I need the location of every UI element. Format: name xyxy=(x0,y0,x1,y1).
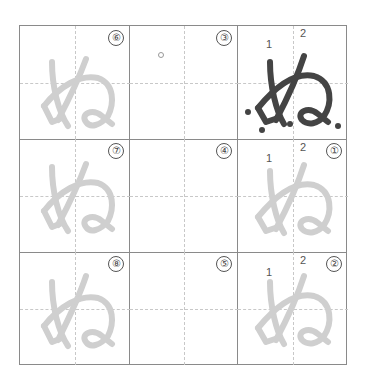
practice-cell-1[interactable]: 1 2 ① xyxy=(238,139,348,252)
practice-cell-4[interactable]: ④ xyxy=(130,139,238,252)
cell-number-badge: ④ xyxy=(216,143,232,159)
nu-model-glyph xyxy=(238,26,348,139)
practice-cell-7[interactable]: ⑦ xyxy=(20,139,130,252)
stroke-order-label-1: 1 xyxy=(266,266,272,278)
practice-cell-5[interactable]: ⑤ xyxy=(130,252,238,365)
stroke-order-label-1: 1 xyxy=(266,38,272,50)
cell-number-badge: ⑧ xyxy=(108,256,124,272)
writing-practice-grid: ⑥ ③ 1 2 xyxy=(19,25,347,365)
cell-number-badge: ② xyxy=(326,256,342,272)
practice-cell-8[interactable]: ⑧ xyxy=(20,252,130,365)
stroke-order-label-2: 2 xyxy=(300,27,306,39)
cell-number-badge: ① xyxy=(326,143,342,159)
cell-number-badge: ⑦ xyxy=(108,143,124,159)
stroke-order-label-1: 1 xyxy=(266,152,272,164)
cell-number-badge: ⑤ xyxy=(216,256,232,272)
stroke-order-label-2: 2 xyxy=(300,254,306,266)
practice-cell-3[interactable]: ③ xyxy=(130,26,238,139)
cell-number-badge: ③ xyxy=(216,30,232,46)
practice-cell-6[interactable]: ⑥ xyxy=(20,26,130,139)
practice-cell-2[interactable]: 1 2 ② xyxy=(238,252,348,365)
horizontal-guide xyxy=(130,196,238,197)
horizontal-guide xyxy=(130,309,238,310)
horizontal-guide xyxy=(130,83,238,84)
stroke-order-label-2: 2 xyxy=(300,141,306,153)
model-cell: 1 2 xyxy=(238,26,348,139)
start-dot xyxy=(158,52,164,58)
cell-number-badge: ⑥ xyxy=(108,30,124,46)
